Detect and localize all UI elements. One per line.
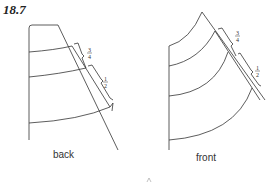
svg-text:1: 1 <box>104 76 107 82</box>
svg-text:2: 2 <box>104 83 107 89</box>
front-pattern <box>169 12 265 150</box>
mark-icon <box>147 178 151 182</box>
svg-text:4: 4 <box>88 54 91 60</box>
front-label: front <box>196 152 216 163</box>
svg-text:1: 1 <box>256 65 259 71</box>
svg-text:3: 3 <box>236 30 239 36</box>
pattern-diagram: 3 4 1 2 3 4 1 2 <box>0 0 267 190</box>
back-fractions: 3 4 1 2 <box>87 47 108 89</box>
svg-text:3: 3 <box>88 47 91 53</box>
back-label: back <box>53 149 74 160</box>
svg-text:2: 2 <box>256 72 259 78</box>
svg-text:4: 4 <box>236 37 239 43</box>
